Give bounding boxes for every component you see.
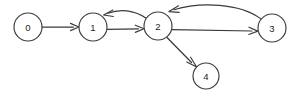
graph-node-4-label: 4 xyxy=(203,71,208,82)
edge-2-to-4 xyxy=(167,38,197,68)
directed-graph-figure: 0 1 2 3 4 xyxy=(0,0,301,93)
graph-canvas: 0 1 2 3 4 xyxy=(0,0,301,93)
edge-3-to-2 xyxy=(169,5,261,19)
graph-node-0[interactable]: 0 xyxy=(14,13,42,41)
graph-node-2-label: 2 xyxy=(155,21,160,32)
graph-node-3[interactable]: 3 xyxy=(258,14,286,42)
graph-node-0-label: 0 xyxy=(25,22,30,33)
edge-2-to-3-line xyxy=(172,30,252,31)
graph-node-3-label: 3 xyxy=(269,23,274,34)
graph-node-2[interactable]: 2 xyxy=(144,12,172,40)
graph-node-4[interactable]: 4 xyxy=(193,63,219,89)
edge-3-to-2-arc xyxy=(174,5,261,19)
edge-1-to-2 xyxy=(107,25,144,32)
edge-0-to-1 xyxy=(42,23,79,30)
node-layer: 0 1 2 3 4 xyxy=(14,12,286,89)
graph-node-1-label: 1 xyxy=(90,22,95,33)
graph-node-1[interactable]: 1 xyxy=(79,13,107,41)
edge-2-to-4-line xyxy=(167,38,192,63)
edge-2-to-1 xyxy=(104,10,146,18)
edge-1-to-2-line xyxy=(107,29,138,30)
edge-2-to-3 xyxy=(172,27,258,34)
